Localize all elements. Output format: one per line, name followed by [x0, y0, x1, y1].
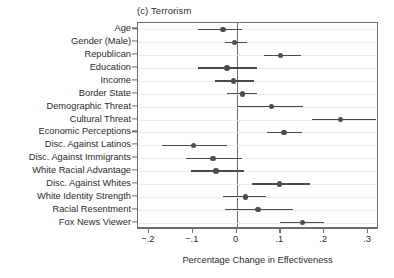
y-axis-category-label: Gender (Male)	[0, 36, 131, 46]
x-axis-title: Percentage Change in Effectiveness	[137, 255, 378, 265]
panel-title: (c) Terrorism	[137, 5, 191, 16]
x-axis-tick	[367, 228, 368, 233]
x-axis-tick	[279, 228, 280, 233]
point-estimate-marker	[240, 91, 245, 96]
x-axis-tick	[192, 228, 193, 233]
y-axis-category-label: Border State	[0, 88, 131, 98]
plot-area	[137, 22, 378, 228]
y-axis-tick	[132, 221, 137, 222]
point-estimate-marker	[300, 220, 305, 225]
y-axis-category-label: Age	[0, 23, 131, 33]
figure-panel-terrorism: (c) Terrorism Percentage Change in Effec…	[0, 0, 394, 278]
y-axis-category-label: Economic Perceptions	[0, 126, 131, 136]
x-axis-tick-label: −.1	[185, 234, 198, 244]
x-axis-tick-label: .2	[319, 234, 327, 244]
point-estimate-marker	[224, 65, 229, 70]
y-axis-tick	[132, 41, 137, 42]
y-axis-category-label: Income	[0, 75, 131, 85]
x-axis-tick	[148, 228, 149, 233]
gridline	[138, 171, 377, 172]
y-axis-tick	[132, 208, 137, 209]
y-axis-category-label: Education	[0, 62, 131, 72]
y-axis-category-label: Disc. Against Whites	[0, 178, 131, 188]
y-axis-tick	[132, 182, 137, 183]
x-axis-tick-label: −.2	[141, 234, 154, 244]
x-axis-line	[137, 228, 378, 229]
confidence-interval-bar	[312, 119, 376, 120]
point-estimate-marker	[213, 168, 218, 173]
y-axis-tick	[132, 66, 137, 67]
y-axis-tick	[132, 92, 137, 93]
point-estimate-marker	[281, 130, 286, 135]
gridline	[138, 55, 377, 56]
point-estimate-marker	[191, 143, 196, 148]
y-axis-tick	[132, 157, 137, 158]
y-axis-category-label: Disc. Against Latinos	[0, 139, 131, 149]
y-axis-tick	[132, 105, 137, 106]
y-axis-tick	[132, 118, 137, 119]
gridline	[138, 68, 377, 69]
point-estimate-marker	[278, 53, 283, 58]
y-axis-category-label: Demographic Threat	[0, 101, 131, 111]
gridline	[138, 42, 377, 43]
y-axis-category-label: White Racial Advantage	[0, 165, 131, 175]
gridline	[138, 223, 377, 224]
y-axis-tick	[132, 28, 137, 29]
x-axis-tick	[236, 228, 237, 233]
point-estimate-marker	[243, 194, 248, 199]
y-axis-tick	[132, 131, 137, 132]
gridline	[138, 81, 377, 82]
x-axis-tick-label: .1	[276, 234, 284, 244]
gridline	[138, 29, 377, 30]
y-axis-tick	[132, 169, 137, 170]
y-axis-category-label: Racial Resentment	[0, 204, 131, 214]
x-axis-tick-label: 0	[233, 234, 238, 244]
x-axis-tick-label: .3	[363, 234, 371, 244]
point-estimate-marker	[232, 40, 237, 45]
y-axis-category-label: Disc. Against Immigrants	[0, 152, 131, 162]
point-estimate-marker	[255, 207, 260, 212]
y-axis-category-label: Republican	[0, 49, 131, 59]
point-estimate-marker	[231, 78, 236, 83]
point-estimate-marker	[277, 181, 282, 186]
point-estimate-marker	[210, 156, 215, 161]
gridline	[138, 94, 377, 95]
y-axis-category-label: Cultural Threat	[0, 114, 131, 124]
gridline	[138, 158, 377, 159]
y-axis-tick	[132, 144, 137, 145]
y-axis-category-label: White Identity Strength	[0, 191, 131, 201]
y-axis-tick	[132, 195, 137, 196]
y-axis-tick	[132, 79, 137, 80]
x-axis-tick	[323, 228, 324, 233]
point-estimate-marker	[269, 104, 274, 109]
point-estimate-marker	[338, 117, 343, 122]
y-axis-category-label: Fox News Viewer	[0, 217, 131, 227]
gridline	[138, 132, 377, 133]
point-estimate-marker	[220, 27, 225, 32]
y-axis-tick	[132, 54, 137, 55]
